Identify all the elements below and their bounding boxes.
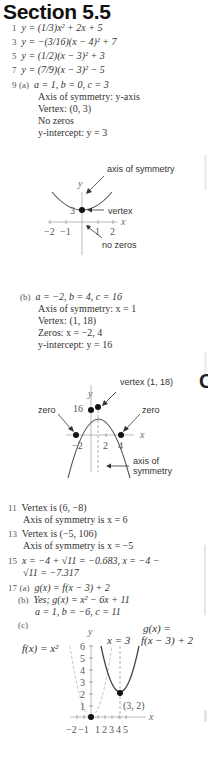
f-label: f(x) = x²	[22, 642, 58, 654]
answer-text: y = (7/9)(x − 3)² − 5	[22, 64, 105, 75]
vertex-point	[95, 404, 101, 410]
x-tick-4: 4	[116, 724, 121, 736]
x-tick-2: 2	[102, 724, 107, 736]
answer-number: 15	[8, 556, 17, 566]
part-label: (a)	[19, 80, 29, 90]
answer-number: 13	[8, 529, 17, 539]
answer-11-line2: Axis of symmetry is x = 6	[23, 514, 128, 526]
annotation-no-zeros: no zeros	[102, 239, 137, 251]
axis-of-symmetry-label: x = 3	[107, 634, 130, 646]
part-label: (b)	[20, 292, 31, 302]
answer-1: 1 y = (1/3)x² + 2x + 5	[12, 22, 103, 34]
y-tick-3: 3	[80, 677, 85, 689]
axis-of-symmetry-text: Axis of symmetry: x = 1	[38, 303, 136, 315]
graph-9b	[0, 370, 208, 480]
answer-number: 11	[8, 503, 17, 513]
answer-text: g(x) = f(x − 3) + 2	[35, 582, 110, 593]
x-tick-4: 4	[118, 440, 123, 452]
vertex-point	[79, 207, 85, 213]
answer-text: y = (1/2)(x − 3)² + 3	[22, 50, 105, 61]
annotation-axis-of-symmetry: axis of symmetry	[107, 163, 175, 175]
y-axis-label: y	[88, 388, 92, 400]
f-vertex-point	[88, 714, 94, 720]
answer-13: 13 Vertex is (−5, 106)	[8, 528, 97, 540]
g-vertex-point	[117, 690, 123, 696]
coefficients: a = −2, b = 4, c = 16	[36, 291, 122, 302]
x-tick-neg2: −2	[72, 440, 83, 452]
answer-9b: (b) a = −2, b = 4, c = 16	[20, 291, 122, 303]
answer-number: 9	[12, 80, 17, 90]
answer-text: y = −(3/16)(x − 4)² + 7	[22, 36, 117, 47]
answer-number: 3	[12, 37, 17, 47]
y-axis-label: y	[88, 626, 92, 638]
axis-of-symmetry-text: Axis of symmetry: y-axis	[38, 91, 140, 103]
answer-7: 7 y = (7/9)(x − 3)² − 5	[12, 64, 105, 76]
g-label-line2: f(x − 3) + 2	[141, 634, 193, 646]
annotation-zero-right: zero	[142, 404, 160, 416]
answer-text: y = (1/3)x² + 2x + 5	[22, 22, 103, 33]
coefficients: a = 1, b = 0, c = 3	[34, 79, 109, 90]
y-tick-2: 2	[80, 689, 85, 701]
answer-text: x = −4 + √11 = −0.683, x = −4 −	[22, 555, 160, 566]
x-tick-1: 1	[95, 226, 100, 238]
answer-text: Yes; g(x) = x² − 6x + 11	[34, 594, 130, 605]
answer-15: 15 x = −4 + √11 = −0.683, x = −4 −	[8, 555, 160, 567]
answer-number: 7	[12, 65, 17, 75]
point-label: (3, 2)	[123, 700, 145, 712]
answer-17b: (b) Yes; g(x) = x² − 6x + 11	[18, 594, 130, 606]
part-label: (b)	[18, 595, 29, 605]
answer-5: 5 y = (1/2)(x − 3)² + 3	[12, 50, 105, 62]
answer-17a: 17 (a) g(x) = f(x − 3) + 2	[8, 582, 110, 594]
x-tick-neg2: −2	[44, 226, 55, 238]
y-tick-1: 1	[80, 701, 85, 713]
answer-17b-coefficients: a = 1, b = −6, c = 11	[35, 606, 121, 618]
answer-3: 3 y = −(3/16)(x − 4)² + 7	[12, 36, 116, 48]
annotation-zero-left: zero	[38, 404, 56, 416]
y-tick-label: 3	[70, 205, 75, 217]
y-axis-label: y	[78, 178, 82, 190]
answer-text: Vertex is (−5, 106)	[22, 528, 97, 539]
answer-13-line2: Axis of symmetry is x = −5	[23, 540, 133, 552]
x-tick-neg1: −1	[60, 226, 71, 238]
vertex-text: Vertex: (0, 3)	[38, 103, 91, 115]
x-tick-3: 3	[109, 724, 114, 736]
answer-number: 17	[8, 583, 17, 593]
y-intercept-text: y-intercept: y = 3	[38, 127, 107, 139]
y-tick-label: 16	[73, 403, 83, 415]
answer-text: Vertex is (6, −8)	[22, 502, 87, 513]
x-tick-neg2: −2	[66, 724, 77, 736]
adjacent-column-fragment	[204, 545, 206, 615]
x-tick-1: 1	[95, 724, 100, 736]
annotation-vertex: vertex (1, 18)	[120, 376, 173, 388]
adjacent-column-fragment	[204, 155, 207, 190]
y-tick-5: 5	[80, 653, 85, 665]
x-tick-5: 5	[123, 724, 128, 736]
zeros-text: No zeros	[38, 115, 74, 127]
x-tick-2: 2	[110, 226, 115, 238]
adjacent-column-fragment	[204, 352, 207, 374]
answer-11: 11 Vertex is (6, −8)	[8, 502, 87, 514]
answer-9a: 9 (a) a = 1, b = 0, c = 3	[12, 79, 109, 91]
x-axis-label: x	[140, 429, 144, 441]
answer-number: 5	[12, 51, 17, 61]
section-title: Section 5.5	[3, 0, 111, 24]
answer-15-line2: √11 = −7.317	[23, 567, 79, 579]
y-intercept-text: y-intercept: y = 16	[38, 339, 112, 351]
x-tick-2: 2	[103, 440, 108, 452]
x-tick-neg1: −1	[78, 724, 89, 736]
y-tick-4: 4	[80, 665, 85, 677]
adjacent-column-fragment	[204, 710, 207, 722]
annotation-axis-line2: symmetry	[133, 465, 172, 477]
zero-point-right	[118, 432, 124, 438]
x-axis-label: x	[121, 216, 125, 228]
x-axis-label: x	[149, 711, 153, 723]
y-tick-6: 6	[80, 641, 85, 653]
g-label-line1: g(x) =	[143, 622, 171, 634]
graph-17c	[0, 640, 208, 760]
answer-number: 1	[12, 23, 17, 33]
y-intercept-point	[88, 407, 94, 413]
vertex-text: Vertex: (1, 18)	[38, 315, 96, 327]
part-label: (a)	[20, 583, 30, 593]
zeros-text: Zeros: x = −2, 4	[38, 327, 102, 339]
part-label-17c: (c)	[18, 619, 28, 631]
